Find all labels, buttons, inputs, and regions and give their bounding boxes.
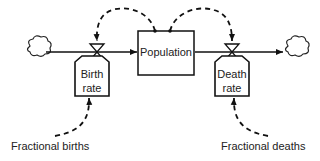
death-rate-label: Death rate bbox=[215, 67, 249, 95]
link-fractional-births-to-birth-rate bbox=[55, 98, 89, 136]
source-cloud-icon bbox=[28, 36, 52, 56]
birth-rate-label-line1: Birth bbox=[75, 67, 109, 81]
link-fractional-deaths-to-death-rate bbox=[234, 98, 268, 136]
birth-rate-label-line2: rate bbox=[75, 81, 109, 95]
sink-cloud-icon bbox=[286, 36, 310, 56]
population-label: Population bbox=[138, 45, 194, 59]
fractional-deaths-label: Fractional deaths bbox=[221, 140, 305, 152]
stock-flow-diagram bbox=[0, 0, 320, 161]
birth-rate-label: Birth rate bbox=[75, 67, 109, 95]
death-rate-label-line1: Death bbox=[215, 67, 249, 81]
fractional-births-label: Fractional births bbox=[11, 140, 89, 152]
death-rate-label-line2: rate bbox=[215, 81, 249, 95]
